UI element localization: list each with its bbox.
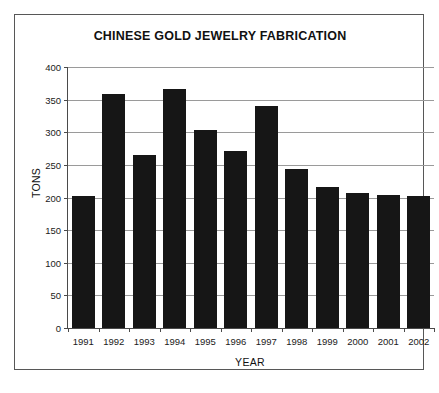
x-axis-tick: [129, 328, 130, 332]
y-axis-tick-label: 50: [50, 290, 61, 301]
y-axis-tick-label: 150: [45, 225, 61, 236]
y-axis-title: TONS: [30, 168, 42, 198]
bar: [316, 187, 339, 328]
x-axis-tick-labels: 1991199219931994199519961997199819992000…: [68, 328, 434, 352]
bar: [72, 196, 95, 328]
bar: [194, 130, 217, 328]
chart-frame: CHINESE GOLD JEWELRY FABRICATION TONS 05…: [14, 14, 424, 370]
x-axis-tick-label: 1999: [317, 336, 338, 347]
x-axis-tick-label: 2000: [347, 336, 368, 347]
y-axis-tick-label: 100: [45, 257, 61, 268]
bar: [255, 106, 278, 328]
x-axis-tick-label: 1991: [73, 336, 94, 347]
x-axis-tick-label: 1993: [134, 336, 155, 347]
x-axis-tick-label: 1995: [195, 336, 216, 347]
x-axis-tick: [190, 328, 191, 332]
y-axis-tick-label: 350: [45, 94, 61, 105]
x-axis-tick: [251, 328, 252, 332]
bar: [163, 89, 186, 328]
x-axis-tick-label: 2001: [378, 336, 399, 347]
chart-title: CHINESE GOLD JEWELRY FABRICATION: [15, 29, 425, 43]
x-axis-tick: [221, 328, 222, 332]
x-axis-title: YEAR: [67, 356, 433, 368]
x-axis-tick: [434, 328, 435, 332]
x-axis-tick-label: 1994: [164, 336, 185, 347]
bar: [346, 193, 369, 328]
bar-series: [68, 67, 434, 328]
x-axis-tick: [404, 328, 405, 332]
x-axis-tick-label: 1992: [103, 336, 124, 347]
x-axis-tick: [343, 328, 344, 332]
x-axis-tick: [312, 328, 313, 332]
bar: [224, 151, 247, 328]
bar: [133, 155, 156, 328]
bar: [407, 196, 430, 328]
x-axis-tick-label: 2002: [408, 336, 429, 347]
x-axis-tick-label: 1997: [256, 336, 277, 347]
y-axis-tick-label: 400: [45, 62, 61, 73]
y-axis-tick-label: 200: [45, 192, 61, 203]
x-axis-tick-label: 1996: [225, 336, 246, 347]
plot-area: 050100150200250300350400 199119921993199…: [67, 67, 434, 329]
y-axis-tick-label: 300: [45, 127, 61, 138]
y-axis-tick-label: 250: [45, 159, 61, 170]
x-axis-tick: [68, 328, 69, 332]
x-axis-tick-label: 1998: [286, 336, 307, 347]
bar: [377, 195, 400, 328]
bar: [285, 169, 308, 328]
x-axis-tick: [160, 328, 161, 332]
x-axis-tick: [282, 328, 283, 332]
x-axis-tick: [99, 328, 100, 332]
x-axis-tick: [373, 328, 374, 332]
y-axis-tick-label: 0: [56, 323, 61, 334]
bar: [102, 94, 125, 328]
